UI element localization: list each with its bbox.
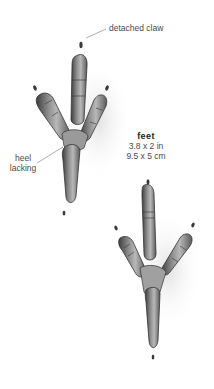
- heel-label-line1: heel: [5, 153, 41, 163]
- lower-footprint: [114, 179, 202, 359]
- detached-claw-label: detached claw: [109, 23, 163, 33]
- heel-label-line2: lacking: [5, 163, 41, 173]
- size-caption: feet 3.8 x 2 in 9.5 x 5 cm: [116, 131, 176, 161]
- caption-size-metric: 9.5 x 5 cm: [116, 151, 176, 161]
- detached-claw-mark: [79, 42, 82, 48]
- caption-title: feet: [116, 131, 176, 141]
- caption-size-imperial: 3.8 x 2 in: [116, 141, 176, 151]
- detached-claw-leader: [86, 29, 106, 38]
- heel-lacking-label: heel lacking: [5, 153, 41, 173]
- footprint-illustration: [0, 0, 214, 389]
- upper-footprint: [32, 42, 132, 216]
